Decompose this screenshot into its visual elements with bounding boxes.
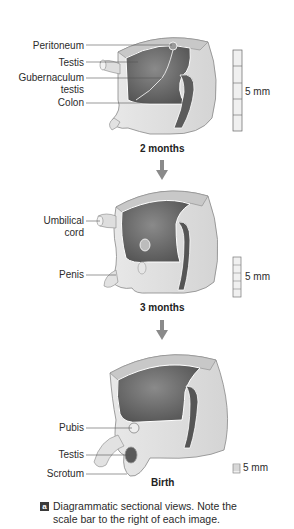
panel-birth-drawing [86,355,228,476]
label-peritoneum: Peritoneum [33,40,84,52]
arrow-down-icon [156,160,168,180]
scale-label-birth: 5 mm [243,462,268,473]
label-umbilical: Umbilical [43,215,84,227]
stage-label-birth: Birth [151,477,174,488]
scale-bar-birth [233,464,240,473]
figure-caption: aDiagrammatic sectional views. Note the … [40,500,290,526]
stage-label-3-months: 3 months [140,302,184,313]
scale-bar-3-months [233,257,241,297]
label-testis: Testis [58,57,84,69]
scale-bar-2-months [233,50,242,131]
stage-label-2-months: 2 months [140,143,184,154]
scale-label-3-months: 5 mm [245,271,270,282]
scale-label-2-months: 5 mm [245,86,270,97]
arrow-down-icon [156,320,168,340]
label-gubernaculum: Gubernaculum [18,72,84,84]
panel-2-months-drawing [86,38,216,134]
caption-badge: a [40,502,49,511]
caption-line-2: scale bar to the right of each image. [40,513,290,526]
label-gubernaculum-testis: testis [61,84,84,96]
panel-3-months-drawing [86,191,218,293]
label-testis-birth: Testis [58,449,84,461]
label-colon: Colon [58,97,84,109]
label-pubis: Pubis [59,422,84,434]
label-scrotum: Scrotum [47,468,84,480]
label-umbilical-cord: cord [65,227,84,239]
label-penis: Penis [59,269,84,281]
caption-line-1: Diagrammatic sectional views. Note the [53,500,237,512]
